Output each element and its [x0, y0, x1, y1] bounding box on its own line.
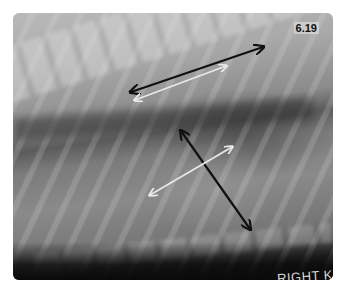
vertebral-length-arrow	[131, 47, 263, 92]
cardiac-long-axis-arrow	[181, 131, 250, 229]
arrow-overlay	[0, 0, 346, 287]
vertebral-reference-arrow	[135, 66, 226, 100]
